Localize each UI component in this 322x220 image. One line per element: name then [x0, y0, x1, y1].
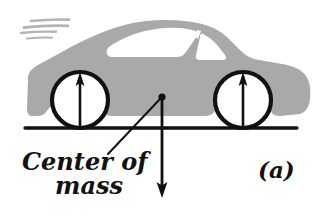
speed-line-1 — [31, 19, 69, 21]
rear-wheel-group — [215, 72, 271, 128]
figure-root: Center of mass (a) — [0, 0, 322, 220]
front-wheel-group — [52, 72, 108, 128]
speed-line-4 — [27, 38, 52, 39]
speed-line-3 — [21, 32, 56, 33]
physics-diagram-svg: Center of mass (a) — [0, 0, 322, 220]
panel-label: (a) — [258, 156, 295, 183]
center-of-mass-label-line2: mass — [55, 171, 123, 200]
